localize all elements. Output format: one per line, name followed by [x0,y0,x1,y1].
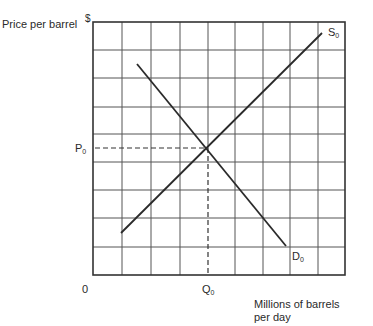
supply-label: S0 [328,26,339,42]
q0-letter: Q [202,283,211,295]
y-axis-label: Price per barrel [2,18,77,30]
origin-label: 0 [82,283,88,295]
y-axis-unit: $ [85,13,91,25]
p0-subscript: 0 [82,148,86,155]
supply-subscript: 0 [335,32,339,39]
q0-label: Q0 [202,283,214,299]
supply-demand-diagram [0,0,373,326]
demand-label: D0 [292,250,304,266]
q0-subscript: 0 [211,289,215,296]
demand-letter: D [292,250,300,262]
demand-subscript: 0 [300,256,304,263]
p0-label: P0 [75,142,86,158]
x-axis-label-line1: Millions of barrels [254,298,340,310]
x-axis-label-line2: per day [254,311,291,323]
